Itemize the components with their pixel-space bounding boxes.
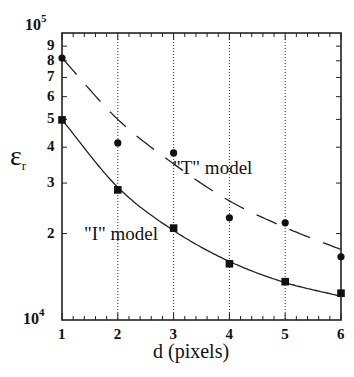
y-tick-label: 6	[47, 88, 55, 105]
x-tick-label: 6	[337, 326, 345, 343]
y-axis-label: εr	[10, 140, 26, 174]
y-tick-base: 10	[25, 16, 41, 33]
i-model-point	[114, 186, 122, 194]
y-axis-subscript: r	[22, 158, 26, 173]
t-model-point	[58, 54, 65, 61]
y-tick-1e4: 104	[23, 306, 45, 328]
i-model-fit-curve	[62, 120, 341, 296]
t-model-point	[170, 149, 177, 156]
t-model-point	[282, 219, 289, 226]
y-axis-symbol: ε	[10, 140, 22, 171]
i-model-point	[170, 224, 178, 232]
i-model-point	[281, 278, 289, 286]
t-model-label: "T" model	[173, 157, 252, 179]
x-axis-label: d (pixels)	[153, 340, 229, 363]
t-model-point	[226, 214, 233, 221]
y-tick-label: 3	[47, 174, 55, 191]
t-model-point	[114, 139, 121, 146]
x-tick-label: 5	[281, 326, 289, 343]
x-tick-label: 1	[58, 326, 66, 343]
x-tick-label: 2	[114, 326, 122, 343]
i-model-label: "I" model	[84, 223, 158, 245]
y-tick-label: 2	[47, 225, 55, 242]
t-model-point	[337, 253, 344, 260]
i-model-point	[58, 116, 66, 124]
t-model-fit-curve	[62, 58, 341, 250]
y-tick-label: 4	[47, 138, 55, 155]
y-tick-label: 8	[47, 52, 55, 69]
i-model-point	[337, 289, 345, 297]
y-tick-base: 10	[23, 310, 39, 327]
i-model-point	[226, 260, 234, 268]
y-tick-label: 7	[47, 68, 55, 85]
y-tick-exponent: 4	[39, 306, 45, 318]
y-tick-label: 5	[47, 110, 55, 127]
y-tick-1e5: 105	[25, 12, 47, 34]
y-tick-exponent: 5	[41, 12, 47, 24]
